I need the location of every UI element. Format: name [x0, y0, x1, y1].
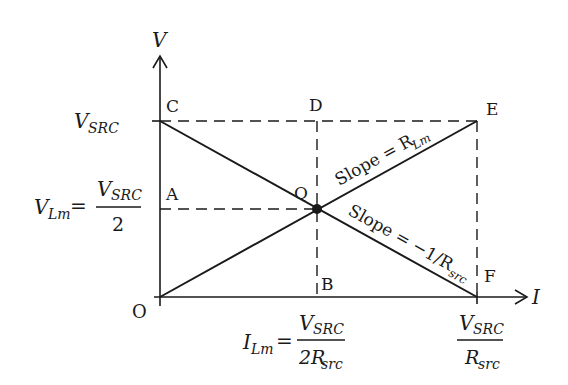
- x-tick-label-ilm: I Lm = V SRC 2R src: [242, 311, 345, 372]
- x-axis-label: I: [531, 285, 541, 309]
- vlm-num-sub: SRC: [111, 187, 142, 203]
- vsrc-sub: SRC: [88, 120, 119, 136]
- isc-num-sub: SRC: [473, 321, 504, 337]
- slope-label-source: Slope = −1/R src: [343, 200, 474, 287]
- slope-label-load: Slope = R Lm: [331, 122, 433, 193]
- point-label-d: D: [309, 95, 323, 115]
- vlm-eq: =: [70, 194, 87, 218]
- vlm-lhs-sub: Lm: [47, 206, 71, 222]
- point-label-a: A: [165, 184, 179, 204]
- point-label-b: B: [321, 274, 334, 294]
- slope-source-text: Slope = −1/R: [345, 200, 458, 275]
- point-label-e: E: [486, 99, 498, 119]
- isc-den-sub: src: [478, 356, 500, 372]
- point-label-f: F: [484, 266, 496, 286]
- ilm-num-sub: SRC: [313, 321, 344, 337]
- y-tick-label-vsrc: V SRC: [74, 109, 119, 136]
- origin-label: O: [132, 301, 147, 322]
- x-tick-label-isc: V SRC R src: [457, 311, 504, 372]
- ilm-den-sub: src: [321, 356, 343, 372]
- load-line-diagram: V I O C D E A B F Q V SRC V Lm = V SRC 2…: [0, 0, 568, 385]
- operating-point-q: [312, 204, 322, 214]
- y-axis-label: V: [152, 28, 169, 52]
- ilm-eq: =: [276, 329, 293, 353]
- slope-load-text: Slope = R: [331, 130, 417, 190]
- point-label-q: Q: [294, 183, 308, 203]
- ilm-lhs-sub: Lm: [250, 341, 274, 357]
- point-label-c: C: [166, 96, 179, 116]
- y-tick-label-vlm: V Lm = V SRC 2: [34, 177, 142, 235]
- vlm-den: 2: [112, 213, 124, 235]
